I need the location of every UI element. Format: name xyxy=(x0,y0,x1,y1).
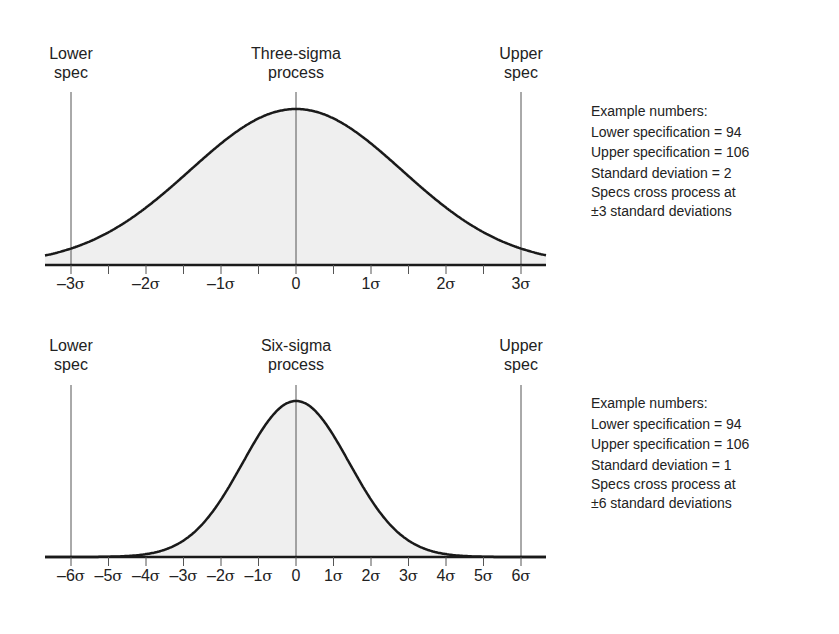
tick-label: 5σ xyxy=(474,567,493,585)
three-sigma-chart xyxy=(45,92,546,274)
example-numbers-bottom: Example numbers: Lower specification = 9… xyxy=(591,393,749,513)
lower-spec-label-top: Lower spec xyxy=(36,44,106,82)
process-label-line1: Six-sigma xyxy=(226,336,366,355)
notes-heading: Example numbers: xyxy=(591,101,749,122)
tick-label: 0 xyxy=(292,567,301,585)
tick-label: –1σ xyxy=(207,275,235,293)
tick-label: 0 xyxy=(292,275,301,293)
tick-label: 1σ xyxy=(324,567,343,585)
process-label-top: Three-sigma process xyxy=(226,44,366,82)
tick-label: –6σ xyxy=(57,567,85,585)
tick-label: –3σ xyxy=(169,567,197,585)
notes-specs-cross: Specs cross process at xyxy=(591,475,749,494)
tick-label: –2σ xyxy=(132,275,160,293)
notes-upper-spec: Upper specification = 106 xyxy=(591,434,749,455)
upper-spec-label-line1: Upper xyxy=(486,336,556,355)
x-axis-ticks-top xyxy=(71,265,521,274)
notes-std-dev: Standard deviation = 2 xyxy=(591,163,749,184)
upper-spec-label-line2: spec xyxy=(486,63,556,82)
tick-label: 6σ xyxy=(511,567,530,585)
notes-lower-spec: Lower specification = 94 xyxy=(591,122,749,143)
tick-label: 3σ xyxy=(399,567,418,585)
notes-specs-cross-2: ±3 standard deviations xyxy=(591,202,749,221)
tick-label: –3σ xyxy=(57,275,85,293)
lower-spec-label-line2: spec xyxy=(36,63,106,82)
tick-label: –1σ xyxy=(244,567,272,585)
process-label-line2: process xyxy=(226,355,366,374)
process-label-line1: Three-sigma xyxy=(226,44,366,63)
upper-spec-label-line2: spec xyxy=(486,355,556,374)
lower-spec-label-bottom: Lower spec xyxy=(36,336,106,374)
sigma-comparison-diagram xyxy=(0,0,839,634)
notes-std-dev: Standard deviation = 1 xyxy=(591,455,749,476)
tick-label: –5σ xyxy=(94,567,122,585)
notes-specs-cross: Specs cross process at xyxy=(591,183,749,202)
lower-spec-label-line1: Lower xyxy=(36,44,106,63)
notes-lower-spec: Lower specification = 94 xyxy=(591,414,749,435)
upper-spec-label-bottom: Upper spec xyxy=(486,336,556,374)
upper-spec-label-line1: Upper xyxy=(486,44,556,63)
notes-specs-cross-2: ±6 standard deviations xyxy=(591,494,749,513)
notes-heading: Example numbers: xyxy=(591,393,749,414)
tick-label: 4σ xyxy=(436,567,455,585)
tick-label: –4σ xyxy=(132,567,160,585)
tick-label: 2σ xyxy=(436,275,455,293)
process-label-line2: process xyxy=(226,63,366,82)
lower-spec-label-line1: Lower xyxy=(36,336,106,355)
example-numbers-top: Example numbers: Lower specification = 9… xyxy=(591,101,749,221)
tick-label: 3σ xyxy=(511,275,530,293)
process-label-bottom: Six-sigma process xyxy=(226,336,366,374)
upper-spec-label-top: Upper spec xyxy=(486,44,556,82)
six-sigma-chart xyxy=(45,385,546,566)
tick-label: 2σ xyxy=(361,567,380,585)
tick-label: 1σ xyxy=(361,275,380,293)
x-axis-ticks-bottom xyxy=(71,557,521,566)
tick-label: –2σ xyxy=(207,567,235,585)
lower-spec-label-line2: spec xyxy=(36,355,106,374)
notes-upper-spec: Upper specification = 106 xyxy=(591,142,749,163)
